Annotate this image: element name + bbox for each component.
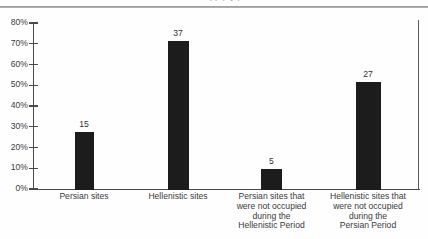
bar-value-label: 37: [173, 29, 183, 38]
bar-value-label: 27: [363, 70, 373, 79]
x-axis-category-labels: Persian sitesHellenistic sitesPersian si…: [0, 192, 428, 239]
bar[interactable]: [261, 169, 282, 190]
bar-group[interactable]: 5: [261, 24, 282, 190]
x-axis-category-label: Hellenistic sites thatwere not occupiedd…: [314, 192, 422, 231]
plot-area: 0%10%20%30%40%50%60%70%80% 1537527 Persi…: [0, 8, 428, 239]
x-axis-category-label-line: Persian Period: [314, 221, 422, 231]
bar[interactable]: [356, 82, 381, 190]
bar[interactable]: [168, 41, 189, 190]
x-axis-category-label: Persian sites: [34, 192, 134, 202]
bar-value-label: 15: [79, 120, 89, 129]
x-axis-category-label-line: Persian sites: [34, 192, 134, 202]
x-axis-category-label-line: Hellenistic Period: [222, 221, 322, 231]
bars-layer: 1537527: [0, 8, 428, 190]
x-axis-category-label-line: Hellenistic sites: [123, 192, 233, 202]
bar-value-label: 5: [269, 157, 274, 166]
x-axis-category-label: Hellenistic sites: [123, 192, 233, 202]
bar[interactable]: [75, 132, 94, 190]
bar-group[interactable]: 27: [356, 24, 381, 190]
bar-group[interactable]: 37: [168, 24, 189, 190]
chart-figure: pp p y p 0%10%20%30%40%50%60%70%80% 1537…: [0, 0, 428, 239]
cropped-title-text: pp p y p: [210, 0, 243, 1]
bar-group[interactable]: 15: [75, 24, 94, 190]
x-axis-category-label: Persian sites thatwere not occupieddurin…: [222, 192, 322, 231]
